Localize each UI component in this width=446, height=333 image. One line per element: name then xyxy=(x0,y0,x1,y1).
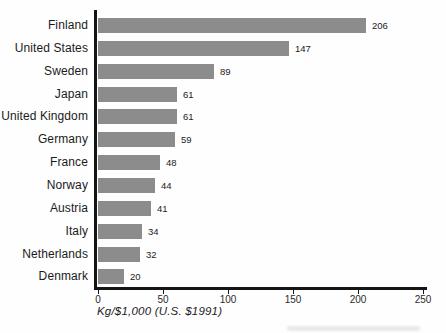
x-tick-label: 150 xyxy=(285,294,302,305)
bar-row: Japan61 xyxy=(0,87,446,102)
value-label: 20 xyxy=(130,269,141,284)
category-label: United Kingdom xyxy=(0,109,88,124)
value-label: 41 xyxy=(157,201,168,216)
category-label: United States xyxy=(0,41,88,56)
bar xyxy=(98,18,366,33)
bar xyxy=(98,178,155,193)
value-label: 44 xyxy=(161,178,172,193)
x-tick-label: 100 xyxy=(220,294,237,305)
value-label: 89 xyxy=(220,64,231,79)
bar-row: Sweden89 xyxy=(0,64,446,79)
x-tick-label: 50 xyxy=(157,294,168,305)
value-label: 61 xyxy=(183,87,194,102)
bar xyxy=(98,201,151,216)
bar-row: Austria41 xyxy=(0,201,446,216)
x-axis-title: Kg/$1,000 (U.S. $1991) xyxy=(97,305,222,317)
x-tick-label: 0 xyxy=(95,294,101,305)
bar-chart: Finland206United States147Sweden89Japan6… xyxy=(0,0,446,333)
bar xyxy=(98,269,124,284)
x-tick-label: 200 xyxy=(350,294,367,305)
value-label: 59 xyxy=(181,132,192,147)
value-label: 32 xyxy=(146,247,157,262)
bar xyxy=(98,132,175,147)
bar xyxy=(98,109,177,124)
value-label: 48 xyxy=(166,155,177,170)
bar-row: Finland206 xyxy=(0,18,446,33)
value-label: 206 xyxy=(372,18,388,33)
bar-row: Italy34 xyxy=(0,224,446,239)
value-label: 147 xyxy=(295,41,311,56)
category-label: Sweden xyxy=(0,64,88,79)
category-label: Japan xyxy=(0,87,88,102)
bar xyxy=(98,155,160,170)
category-label: Netherlands xyxy=(0,247,88,262)
bar xyxy=(98,247,140,262)
bar-row: Denmark20 xyxy=(0,269,446,284)
value-label: 34 xyxy=(148,224,159,239)
category-label: Italy xyxy=(0,224,88,239)
bar-row: Norway44 xyxy=(0,178,446,193)
category-label: Denmark xyxy=(0,269,88,284)
value-label: 61 xyxy=(183,109,194,124)
bar-row: Germany59 xyxy=(0,132,446,147)
bar-row: United Kingdom61 xyxy=(0,109,446,124)
y-axis-line xyxy=(94,10,97,290)
faint-print-artifact xyxy=(287,326,420,331)
x-tick-label: 250 xyxy=(415,294,432,305)
category-label: Austria xyxy=(0,201,88,216)
bar xyxy=(98,64,214,79)
bar-row: France48 xyxy=(0,155,446,170)
bar xyxy=(98,224,142,239)
category-label: France xyxy=(0,155,88,170)
bar xyxy=(98,41,289,56)
bar-row: Netherlands32 xyxy=(0,247,446,262)
category-label: Finland xyxy=(0,18,88,33)
category-label: Germany xyxy=(0,132,88,147)
bar-row: United States147 xyxy=(0,41,446,56)
x-axis-line xyxy=(94,287,427,290)
category-label: Norway xyxy=(0,178,88,193)
bar xyxy=(98,87,177,102)
